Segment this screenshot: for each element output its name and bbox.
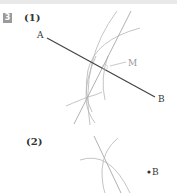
segment-ab [47,38,155,97]
part-2-line [94,136,121,193]
construction-arcs-part-2 [80,138,130,193]
point-a-label: A [37,30,44,40]
m-leader-line [110,62,126,66]
arc-inner-right [103,56,108,100]
point-m-label: M [128,58,137,68]
point-b-dot [147,170,150,173]
arc-part-2-b [80,158,130,193]
arc-from-a-upper [86,28,140,112]
point-b-label: B [158,94,165,104]
construction-figure [0,0,177,193]
part-2-point-b-label: B [152,167,159,177]
